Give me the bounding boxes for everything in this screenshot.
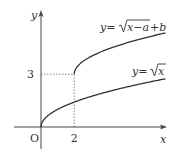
series-label-sqrt: y= x xyxy=(131,64,166,78)
series-label-prefix: y= xyxy=(131,65,147,78)
x-axis-label: x xyxy=(160,133,167,146)
y-axis-label: y xyxy=(30,9,38,22)
origin-label: O xyxy=(30,132,39,145)
series-label-suffix: +b xyxy=(150,21,166,34)
guide-lines xyxy=(41,74,74,127)
curve-shifted-sqrt xyxy=(74,33,165,74)
x-tick-label: 2 xyxy=(71,132,78,145)
curve-sqrt xyxy=(41,79,166,127)
series-label-shifted-sqrt: y= x−a +b xyxy=(99,20,166,34)
y-tick-label: 3 xyxy=(27,68,34,81)
series-label-prefix: y= xyxy=(99,21,115,34)
series-label-radicand: x−a xyxy=(127,21,149,34)
curves xyxy=(41,33,166,127)
series-label-radicand: x xyxy=(158,65,165,78)
chart: x y O 2 3 y= x−a +b y= x xyxy=(0,0,173,158)
